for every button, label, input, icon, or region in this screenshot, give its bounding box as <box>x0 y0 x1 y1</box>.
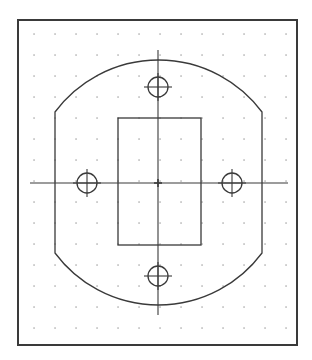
grid-dot <box>138 54 139 55</box>
grid-dot <box>264 180 265 181</box>
grid-dot <box>138 75 139 76</box>
grid-dot <box>243 75 244 76</box>
grid-dot <box>180 180 181 181</box>
grid-dot <box>264 264 265 265</box>
grid-dot <box>96 264 97 265</box>
grid-dot <box>33 33 34 34</box>
grid-dot <box>33 327 34 328</box>
grid-dot <box>243 285 244 286</box>
grid-dot <box>264 117 265 118</box>
grid-dot <box>222 96 223 97</box>
grid-dot <box>138 33 139 34</box>
grid-dot <box>96 33 97 34</box>
grid-dot <box>54 96 55 97</box>
grid-dot <box>159 222 160 223</box>
grid-dot <box>33 222 34 223</box>
grid-dot <box>138 222 139 223</box>
grid-dot <box>33 264 34 265</box>
hole-bottom <box>144 262 172 290</box>
grid-dot <box>54 33 55 34</box>
grid-dot <box>222 306 223 307</box>
grid-dot <box>222 222 223 223</box>
hole-top <box>144 73 172 101</box>
grid-dot <box>264 159 265 160</box>
grid-dot <box>201 285 202 286</box>
grid-dot <box>285 201 286 202</box>
grid-dot <box>96 117 97 118</box>
grid-dot <box>75 222 76 223</box>
grid-dot <box>75 33 76 34</box>
grid-dot <box>96 138 97 139</box>
grid-dot <box>264 306 265 307</box>
grid-dot <box>159 306 160 307</box>
grid-dot <box>138 306 139 307</box>
grid-dot <box>285 327 286 328</box>
grid-dot <box>285 243 286 244</box>
grid-dot <box>117 75 118 76</box>
grid-dot <box>159 138 160 139</box>
grid-dot <box>159 33 160 34</box>
grid-dot <box>264 96 265 97</box>
grid-dot <box>285 96 286 97</box>
grid-dot <box>33 96 34 97</box>
grid-dot <box>243 33 244 34</box>
grid-dot <box>243 201 244 202</box>
grid-dot <box>264 285 265 286</box>
grid-dot <box>96 159 97 160</box>
grid-dot <box>264 201 265 202</box>
grid-dot <box>180 285 181 286</box>
grid-dot <box>243 243 244 244</box>
grid-dot <box>75 306 76 307</box>
grid-dot <box>264 33 265 34</box>
grid-dot <box>33 306 34 307</box>
grid-dot <box>201 33 202 34</box>
grid-dot <box>222 327 223 328</box>
grid-dot <box>117 327 118 328</box>
grid-dot <box>243 96 244 97</box>
grid-dot <box>285 180 286 181</box>
grid-dot <box>75 327 76 328</box>
grid-dot <box>54 327 55 328</box>
grid-dot <box>243 306 244 307</box>
grid-dot <box>180 33 181 34</box>
grid-dot <box>33 201 34 202</box>
grid-dot <box>222 201 223 202</box>
grid-dot <box>285 54 286 55</box>
grid-dot <box>54 264 55 265</box>
grid-dot <box>285 117 286 118</box>
grid-dot <box>33 54 34 55</box>
grid-dot <box>285 264 286 265</box>
grid-dot <box>96 306 97 307</box>
grid-dot <box>285 285 286 286</box>
grid-dot <box>180 75 181 76</box>
grid-dot <box>117 306 118 307</box>
hole-left <box>73 169 101 197</box>
grid-dot <box>201 327 202 328</box>
grid-dot <box>138 327 139 328</box>
grid-dot <box>138 285 139 286</box>
grid-dot <box>138 180 139 181</box>
grid-dot <box>285 306 286 307</box>
grid-dot <box>264 222 265 223</box>
grid-dot <box>222 159 223 160</box>
grid-dot <box>117 96 118 97</box>
grid-dot <box>180 306 181 307</box>
grid-dot <box>222 264 223 265</box>
hole-right <box>218 169 246 197</box>
grid-dot <box>33 138 34 139</box>
cad-drawing-canvas[interactable] <box>0 0 312 360</box>
grid-dot <box>96 201 97 202</box>
grid-dot <box>75 264 76 265</box>
grid-dot <box>180 264 181 265</box>
grid-dot <box>201 96 202 97</box>
grid-dot <box>180 222 181 223</box>
grid-dot <box>75 138 76 139</box>
grid-dot <box>243 327 244 328</box>
grid-dot <box>75 54 76 55</box>
grid-dot <box>117 33 118 34</box>
grid-dot <box>138 201 139 202</box>
grid-dot <box>33 243 34 244</box>
grid-dot <box>180 201 181 202</box>
grid-dot <box>117 285 118 286</box>
grid-dot <box>180 96 181 97</box>
